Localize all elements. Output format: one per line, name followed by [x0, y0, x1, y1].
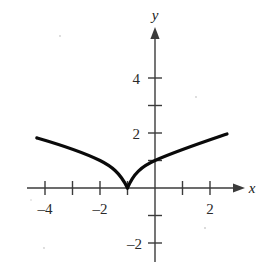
- y-tick-label-2: 2: [133, 126, 141, 142]
- x-tick-label--2: –2: [92, 201, 108, 217]
- x-tick-label-2: 2: [206, 201, 214, 217]
- scan-speck: [43, 247, 45, 249]
- scan-speck: [59, 35, 61, 37]
- graph-figure: –4 –2 2 4 2 –2 x y: [0, 0, 270, 270]
- y-tick-label--2: –2: [126, 236, 142, 252]
- scan-speck: [30, 199, 32, 201]
- scan-speck: [195, 96, 197, 98]
- y-axis-label: y: [150, 7, 159, 23]
- y-tick-label-4: 4: [133, 71, 141, 87]
- x-axis-label: x: [248, 180, 256, 196]
- scan-speck: [204, 227, 206, 229]
- coordinate-plane-svg: –4 –2 2 4 2 –2 x y: [0, 0, 270, 270]
- x-tick-label--4: –4: [37, 201, 54, 217]
